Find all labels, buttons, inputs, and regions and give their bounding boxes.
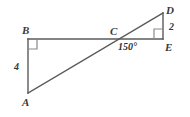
side-length-de-label: 2 [169, 22, 174, 32]
right-angle-e-marker [154, 29, 163, 39]
vertex-label-b: B [22, 25, 29, 36]
vertex-label-c: C [110, 26, 117, 37]
side-length-ab-label: 4 [14, 62, 19, 72]
segment-ad [28, 13, 163, 93]
vertex-label-a: A [22, 97, 29, 108]
vertex-label-d: D [166, 5, 174, 16]
angle-measure-c-label: 150° [118, 42, 137, 52]
geometry-figure: B A C D E 4 2 150° [0, 0, 190, 117]
right-angle-b-marker [28, 39, 37, 49]
vertex-label-e: E [165, 42, 172, 53]
